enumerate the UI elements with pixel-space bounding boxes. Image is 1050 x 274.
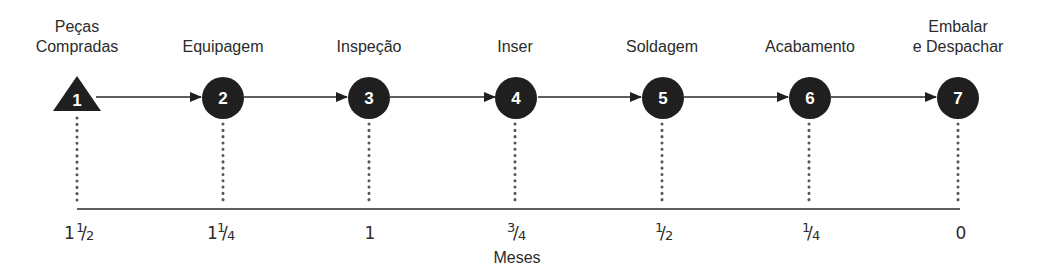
tick-label-4: 3 / 4 — [507, 220, 526, 243]
axis-title: Meses — [493, 249, 540, 266]
step-number: 7 — [953, 89, 962, 108]
step-number: 2 — [218, 89, 227, 108]
step-6-node: 6 — [789, 77, 831, 119]
tick-denominator: 2 — [665, 228, 673, 243]
step-number: 6 — [805, 89, 814, 108]
step-6-label: Acabamento — [765, 38, 855, 55]
tick-denominator: 2 — [86, 228, 94, 243]
step-4-label: Inser — [497, 38, 533, 55]
step-7-label-line2: e Despachar — [913, 38, 1004, 55]
step-number: 1 — [72, 91, 81, 110]
tick-label-1: 1 1 / 2 — [64, 220, 94, 243]
tick-label-2: 1 1 / 4 — [207, 220, 235, 243]
tick-whole: 1 — [365, 223, 376, 243]
tick-whole: 1 — [64, 223, 75, 243]
step-5-node: 5 — [642, 77, 684, 119]
step-number: 4 — [511, 89, 521, 108]
tick-label-7: 0 — [956, 223, 967, 243]
step-number: 5 — [658, 89, 667, 108]
step-4-node: 4 — [495, 77, 537, 119]
step-7-label-line1: Embalar — [928, 18, 988, 35]
tick-label-5: 1 / 2 — [655, 220, 673, 243]
tick-whole: 0 — [956, 223, 967, 243]
tick-denominator: 4 — [227, 228, 235, 243]
step-1-node: 1 — [53, 76, 101, 111]
tick-denominator: 4 — [518, 228, 526, 243]
step-7-node: 7 — [937, 77, 979, 119]
step-1-label-line2: Compradas — [36, 38, 119, 55]
step-2-label: Equipagem — [183, 38, 264, 55]
process-timeline-diagram: 1 Peças Compradas 2 Equipagem 3 Inspeção… — [0, 0, 1050, 274]
tick-label-3: 1 — [365, 223, 376, 243]
step-3-node: 3 — [348, 77, 390, 119]
dotted-drop-lines — [77, 118, 958, 204]
step-5-label: Soldagem — [626, 38, 698, 55]
tick-denominator: 4 — [812, 228, 820, 243]
step-1-label-line1: Peças — [55, 18, 99, 35]
step-2-node: 2 — [202, 77, 244, 119]
step-number: 3 — [364, 89, 373, 108]
step-3-label: Inspeção — [337, 38, 402, 55]
tick-label-6: 1 / 4 — [802, 220, 820, 243]
